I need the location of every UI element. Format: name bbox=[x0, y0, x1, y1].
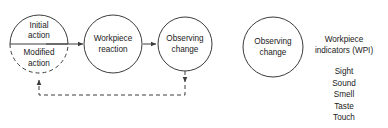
diagram-canvas: Initial action Modified action Workpiece… bbox=[0, 0, 388, 128]
diagram-svg: Initial action Modified action Workpiece… bbox=[0, 0, 388, 128]
action-node-bottom-label-line1: Modified bbox=[24, 48, 55, 57]
wpi-list: Sight Sound Smell Taste Touch bbox=[332, 67, 356, 122]
wpi-heading-line1: Workpiece bbox=[325, 35, 364, 44]
observing-change-node-legend-label-line1: Observing bbox=[254, 37, 292, 46]
wpi-list-item-touch: Touch bbox=[333, 113, 355, 122]
wpi-list-item-sight: Sight bbox=[335, 67, 354, 76]
feedback-loop bbox=[39, 80, 185, 95]
observing-change-node: Observing change bbox=[158, 17, 212, 71]
workpiece-reaction-node-label-line1: Workpiece bbox=[94, 34, 133, 43]
action-node-top-label-line2: action bbox=[28, 31, 50, 40]
observing-change-node-legend-label-line2: change bbox=[260, 48, 287, 57]
wpi-list-item-smell: Smell bbox=[334, 90, 355, 99]
wpi-heading: Workpiece indicators (WPI) bbox=[315, 35, 374, 55]
wpi-list-item-taste: Taste bbox=[334, 102, 354, 111]
observing-change-node-label-line2: change bbox=[172, 45, 199, 54]
wpi-list-item-sound: Sound bbox=[332, 79, 356, 88]
observing-change-node-label-line1: Observing bbox=[166, 34, 204, 43]
workpiece-reaction-node-label-line2: reaction bbox=[98, 45, 128, 54]
action-node-bottom-label-line2: action bbox=[28, 59, 50, 68]
action-node-top-label-line1: Initial bbox=[29, 21, 48, 30]
observing-change-node-legend: Observing change bbox=[243, 17, 303, 77]
wpi-heading-line2: indicators (WPI) bbox=[315, 46, 374, 55]
workpiece-reaction-node: Workpiece reaction bbox=[84, 15, 142, 73]
